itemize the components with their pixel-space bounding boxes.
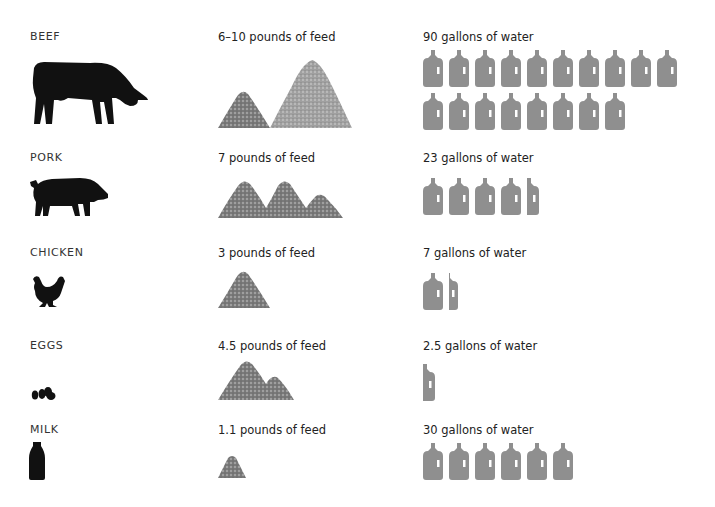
water-text-beef: 90 gallons of water — [423, 30, 534, 44]
water-jugs-milk — [423, 443, 693, 480]
cow-icon — [30, 58, 150, 128]
pig-icon — [28, 176, 110, 218]
milk-bottle-icon — [29, 442, 45, 480]
water-jug-icon — [475, 443, 495, 480]
feed-text-beef: 6–10 pounds of feed — [218, 30, 335, 44]
water-jug-icon — [423, 273, 443, 310]
water-jug-icon — [501, 50, 521, 87]
water-jug-icon — [475, 93, 495, 130]
water-text-milk: 30 gallons of water — [423, 423, 534, 437]
water-jug-icon — [449, 178, 469, 215]
water-jug-icon — [501, 443, 521, 480]
water-jugs-eggs — [423, 364, 693, 401]
feed-text-eggs: 4.5 pounds of feed — [218, 339, 326, 353]
water-jug-icon — [657, 50, 677, 87]
feed-pile-icon — [218, 84, 270, 128]
eggs-icon — [31, 385, 57, 401]
row-label-milk: MILK — [30, 423, 58, 436]
water-jug-icon — [501, 93, 521, 130]
feed-pile-icon — [270, 58, 352, 128]
water-jug-icon — [475, 178, 495, 215]
water-jug-icon — [527, 50, 547, 87]
water-jug-partial-icon — [527, 178, 539, 215]
water-jug-icon — [553, 443, 573, 480]
water-jug-icon — [527, 443, 547, 480]
water-jug-icon — [423, 93, 443, 130]
row-label-chicken: CHICKEN — [30, 246, 83, 259]
feed-text-pork: 7 pounds of feed — [218, 151, 315, 165]
feed-text-milk: 1.1 pounds of feed — [218, 423, 326, 437]
row-label-eggs: EGGS — [30, 339, 63, 352]
water-jugs-pork — [423, 178, 693, 215]
water-text-chicken: 7 gallons of water — [423, 246, 526, 260]
water-jug-icon — [553, 93, 573, 130]
water-jug-icon — [579, 50, 599, 87]
water-jug-icon — [449, 443, 469, 480]
water-jug-icon — [527, 93, 547, 130]
water-jug-icon — [449, 50, 469, 87]
water-jug-icon — [605, 93, 625, 130]
feed-pile-icon — [218, 268, 270, 308]
water-jug-partial-icon — [449, 273, 458, 310]
water-jug-icon — [423, 178, 443, 215]
water-jug-icon — [579, 93, 599, 130]
water-jug-icon — [475, 50, 495, 87]
feed-pile-icon — [218, 358, 294, 400]
water-jug-icon — [449, 93, 469, 130]
water-text-pork: 23 gallons of water — [423, 151, 534, 165]
feed-text-chicken: 3 pounds of feed — [218, 246, 315, 260]
chicken-icon — [31, 273, 65, 309]
row-label-beef: BEEF — [30, 30, 60, 43]
water-jug-icon — [423, 443, 443, 480]
feed-pile-icon — [218, 454, 246, 478]
water-jug-icon — [423, 50, 443, 87]
water-jug-icon — [501, 178, 521, 215]
water-jug-icon — [631, 50, 651, 87]
row-label-pork: PORK — [30, 151, 63, 164]
water-jug-icon — [605, 50, 625, 87]
water-text-eggs: 2.5 gallons of water — [423, 339, 537, 353]
water-jugs-beef — [423, 50, 693, 130]
water-jugs-chicken — [423, 273, 693, 310]
feed-pile-icon — [218, 178, 343, 218]
water-jug-icon — [553, 50, 573, 87]
water-jug-partial-icon — [423, 364, 435, 401]
